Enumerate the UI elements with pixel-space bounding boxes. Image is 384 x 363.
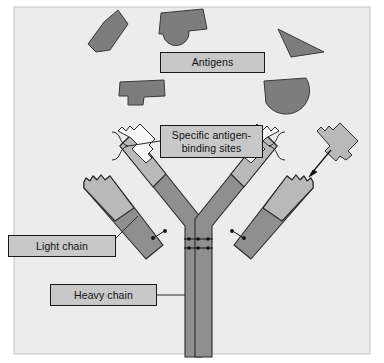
label-antigens: Antigens (160, 52, 265, 73)
antibody-diagram-figure: Antigens Specific antigen- binding sites… (0, 0, 384, 363)
label-light-chain: Light chain (8, 235, 116, 257)
label-binding-sites: Specific antigen- binding sites (160, 125, 263, 158)
label-heavy-chain: Heavy chain (50, 284, 157, 306)
